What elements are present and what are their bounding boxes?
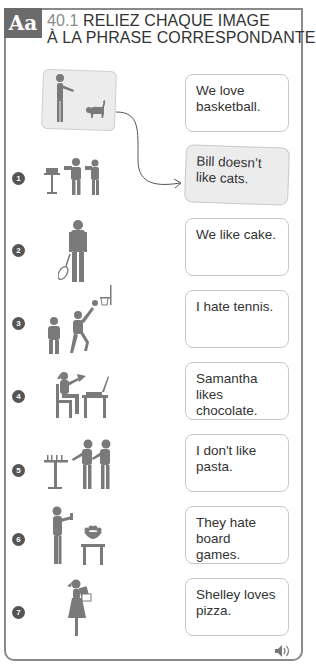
exercise-number: 40.1 [47,12,79,29]
sentence-box-8[interactable]: Shelley loves pizza. [185,578,289,636]
man-refusing-pasta-image [50,506,108,566]
sentence-box-7[interactable]: They hate board games. [185,506,289,564]
sentence-box-2-answered[interactable]: Bill doesn’t like cats. [184,144,290,206]
sentence-box-5[interactable]: Samantha likes chocolate. [185,362,289,420]
sentence-text: Shelley loves pizza. [196,587,276,618]
exercise-title: 40.1 RELIEZ CHAQUE IMAGE À LA PHRASE COR… [47,12,316,46]
man-with-cat-image [50,72,114,128]
sentence-text: Samantha likes chocolate. [196,371,258,418]
item-number-6: 6 [12,533,25,546]
item-number-2: 2 [12,244,25,257]
item-number-3: 3 [12,317,25,330]
people-near-board-game-image [42,438,114,492]
sentence-text: They hate board games. [196,515,256,562]
sentence-text: I hate tennis. [196,299,273,314]
girl-eating-pizza-image [54,370,110,420]
girl-with-chocolate-image [64,578,96,638]
sentence-box-4[interactable]: I hate tennis. [185,290,289,348]
item-number-1: 1 [12,172,25,185]
sentence-box-3[interactable]: We like cake. [185,218,289,276]
vocabulary-badge: Aa [4,8,42,38]
basketball-players-image [40,285,120,355]
title-line-1: RELIEZ CHAQUE IMAGE [83,12,270,29]
sentence-box-1[interactable]: We love basketball. [185,74,289,132]
man-with-tennis-racket-image [58,220,94,286]
item-number-7: 7 [12,606,25,619]
people-with-cake-image [42,156,112,196]
sentence-box-6[interactable]: I don't like pasta. [185,434,289,492]
item-number-4: 4 [12,390,25,403]
title-line-2: À LA PHRASE CORRESPONDANTE. [47,29,316,46]
speaker-icon[interactable] [274,644,292,658]
item-number-5: 5 [12,464,25,477]
sentence-text: Bill doesn’t like cats. [196,154,262,187]
sentence-text: We like cake. [196,227,276,242]
sentence-text: We love basketball. [196,83,261,114]
sentence-text: I don't like pasta. [196,443,256,474]
